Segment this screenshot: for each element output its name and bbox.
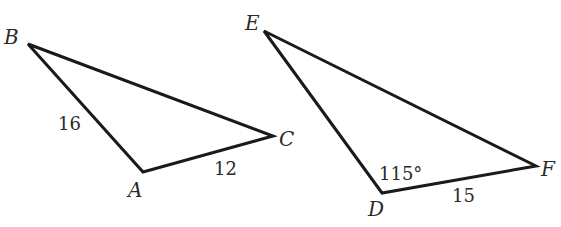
side-ac-length: 12 bbox=[214, 158, 237, 179]
vertex-label-c: C bbox=[279, 127, 294, 151]
triangle-abc: B C A 16 12 bbox=[3, 25, 294, 202]
vertex-label-a: A bbox=[126, 178, 142, 202]
side-df-length: 15 bbox=[452, 185, 475, 206]
side-ab-length: 16 bbox=[58, 113, 81, 134]
vertex-label-f: F bbox=[540, 157, 556, 181]
triangle-def: E F D 115° 15 bbox=[244, 11, 556, 221]
triangles-diagram: B C A 16 12 E F D 115° 15 bbox=[0, 0, 561, 227]
triangle-abc-outline bbox=[28, 44, 273, 172]
vertex-label-b: B bbox=[3, 25, 19, 49]
vertex-label-e: E bbox=[244, 11, 260, 35]
vertex-label-d: D bbox=[367, 197, 384, 221]
angle-d-measure: 115° bbox=[379, 163, 422, 184]
